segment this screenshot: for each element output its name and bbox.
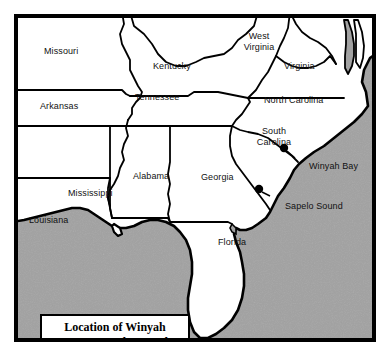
map-title-box: Location of Winyah Bay & Sapelo Sound — [40, 314, 190, 342]
map-canvas — [18, 18, 372, 338]
sapelo-sound-marker — [255, 185, 263, 193]
winyah-bay-marker — [280, 144, 288, 152]
map-frame: Missouri Kentucky West Virginia Virginia… — [14, 14, 376, 342]
location-map-figure: Missouri Kentucky West Virginia Virginia… — [0, 0, 390, 361]
map-title-line-2: Bay & Sapelo Sound — [62, 335, 168, 343]
map-title-line-1: Location of Winyah — [64, 320, 166, 335]
